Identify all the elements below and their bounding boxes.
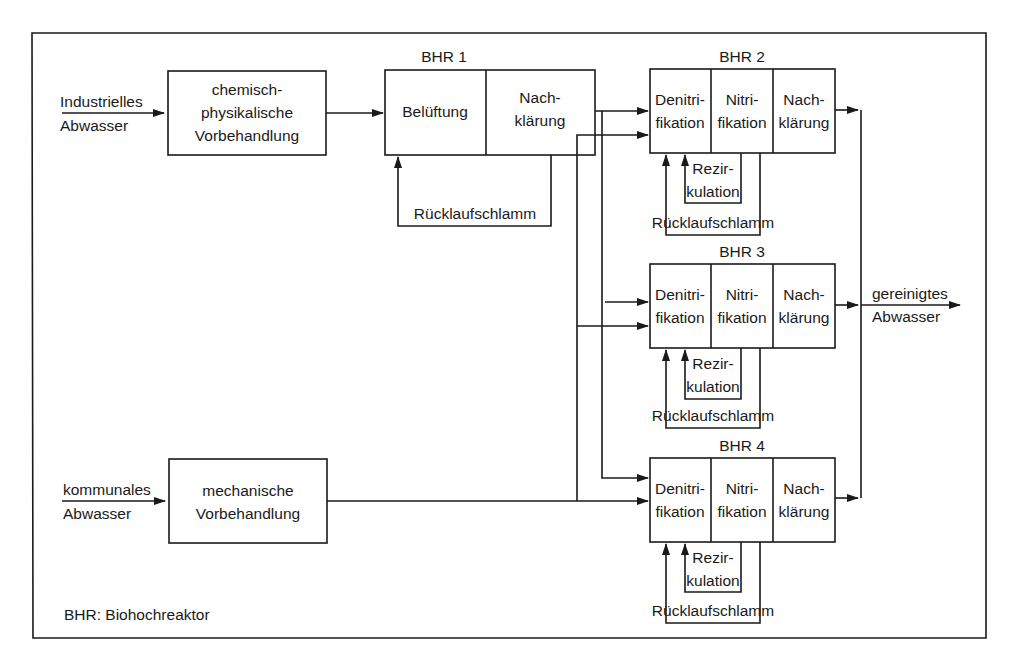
wastewater-treatment-diagram: Industrielles Abwasser chemisch- physika… bbox=[0, 0, 1017, 668]
mechanical-label-1: mechanische bbox=[202, 482, 293, 499]
bhr3-nit-2: fikation bbox=[717, 309, 766, 326]
bhr4-clar-2: klärung bbox=[779, 503, 830, 520]
bhr4-return: Rücklaufschlamm bbox=[652, 602, 774, 619]
bhr2-clar-1: Nach- bbox=[783, 91, 824, 108]
bhr3-nit-1: Nitri- bbox=[726, 286, 759, 303]
bhr1-aeration-label: Belüftung bbox=[402, 103, 468, 120]
chemical-label-2: physikalische bbox=[201, 104, 293, 121]
bhr2-denit-1: Denitri- bbox=[655, 91, 705, 108]
bhr4-box bbox=[650, 458, 835, 542]
bhr2-recirc-2: kulation bbox=[686, 183, 739, 200]
bhr4-recirc-2: kulation bbox=[686, 572, 739, 589]
bhr2-nit-2: fikation bbox=[717, 114, 766, 131]
municipal-label-1: kommunales bbox=[63, 481, 151, 498]
bhr2-clar-2: klärung bbox=[779, 114, 830, 131]
bhr3-clar-2: klärung bbox=[779, 309, 830, 326]
bhr3-denit-1: Denitri- bbox=[655, 286, 705, 303]
bhr2-denit-2: fikation bbox=[655, 114, 704, 131]
chemical-label-1: chemisch- bbox=[212, 81, 283, 98]
bhr3-denit-2: fikation bbox=[655, 309, 704, 326]
bhr3-recirc-1: Rezir- bbox=[692, 355, 733, 372]
outer-frame bbox=[32, 33, 986, 638]
bhr2-nit-1: Nitri- bbox=[726, 91, 759, 108]
bhr2-return: Rücklaufschlamm bbox=[652, 214, 774, 231]
bhr4-nit-1: Nitri- bbox=[726, 480, 759, 497]
bhr3-clar-1: Nach- bbox=[783, 286, 824, 303]
bhr2-recirc-1: Rezir- bbox=[692, 160, 733, 177]
chemical-label-3: Vorbehandlung bbox=[195, 127, 299, 144]
bhr3-title: BHR 3 bbox=[719, 243, 765, 260]
bhr1-return-label: Rücklaufschlamm bbox=[414, 205, 536, 222]
bhr1-clarification-label-2: klärung bbox=[515, 112, 566, 129]
industrial-label-1: Industrielles bbox=[60, 93, 143, 110]
bhr4-denit-1: Denitri- bbox=[655, 480, 705, 497]
bhr2-box bbox=[650, 69, 835, 153]
industrial-label-2: Abwasser bbox=[60, 117, 128, 134]
bhr4-nit-2: fikation bbox=[717, 503, 766, 520]
bhr3-box bbox=[650, 264, 835, 348]
output-label-1: gereinigtes bbox=[872, 285, 948, 302]
bhr4-clar-1: Nach- bbox=[783, 480, 824, 497]
mechanical-pretreatment-box bbox=[169, 459, 327, 543]
bhr2-title: BHR 2 bbox=[719, 48, 765, 65]
bhr3-return: Rücklaufschlamm bbox=[652, 407, 774, 424]
bhr4-recirc-1: Rezir- bbox=[692, 549, 733, 566]
mechanical-label-2: Vorbehandlung bbox=[196, 505, 300, 522]
bhr1-clarification-label-1: Nach- bbox=[519, 89, 560, 106]
bhr1-title: BHR 1 bbox=[421, 48, 467, 65]
output-label-2: Abwasser bbox=[872, 308, 940, 325]
legend-text: BHR: Biohochreaktor bbox=[64, 606, 210, 623]
bhr4-title: BHR 4 bbox=[719, 437, 765, 454]
bhr3-recirc-2: kulation bbox=[686, 378, 739, 395]
municipal-label-2: Abwasser bbox=[63, 505, 131, 522]
bhr4-denit-2: fikation bbox=[655, 503, 704, 520]
